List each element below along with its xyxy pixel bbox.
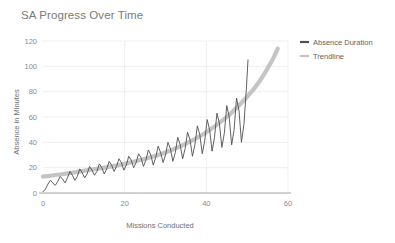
y-tick-label: 40 xyxy=(29,138,37,147)
chart-container: SA Progress Over Time 020406080100120 02… xyxy=(0,0,395,243)
series-trendline xyxy=(43,49,278,177)
legend-label: Absence Duration xyxy=(313,38,373,47)
y-tick-label: 20 xyxy=(29,163,37,172)
x-axis-title: Missions Conducted xyxy=(126,221,194,230)
x-tick-label: 0 xyxy=(41,199,45,208)
y-axis-tick-labels: 020406080100120 xyxy=(24,37,37,198)
y-tick-label: 120 xyxy=(24,37,37,46)
y-tick-label: 0 xyxy=(33,189,37,198)
x-tick-label: 60 xyxy=(284,199,292,208)
x-tick-label: 40 xyxy=(202,199,210,208)
data-series xyxy=(43,49,278,192)
chart-legend: Absence DurationTrendline xyxy=(300,38,373,61)
y-axis-title: Absence in Minutes xyxy=(12,89,21,155)
x-axis-tick-labels: 0204060 xyxy=(41,199,292,208)
y-tick-label: 60 xyxy=(29,113,37,122)
x-tick-label: 20 xyxy=(120,199,128,208)
y-tick-label: 80 xyxy=(29,87,37,96)
y-tick-label: 100 xyxy=(24,62,37,71)
legend-label: Trendline xyxy=(313,52,344,61)
chart-plot: 020406080100120 0204060 Absence in Minut… xyxy=(0,0,395,243)
